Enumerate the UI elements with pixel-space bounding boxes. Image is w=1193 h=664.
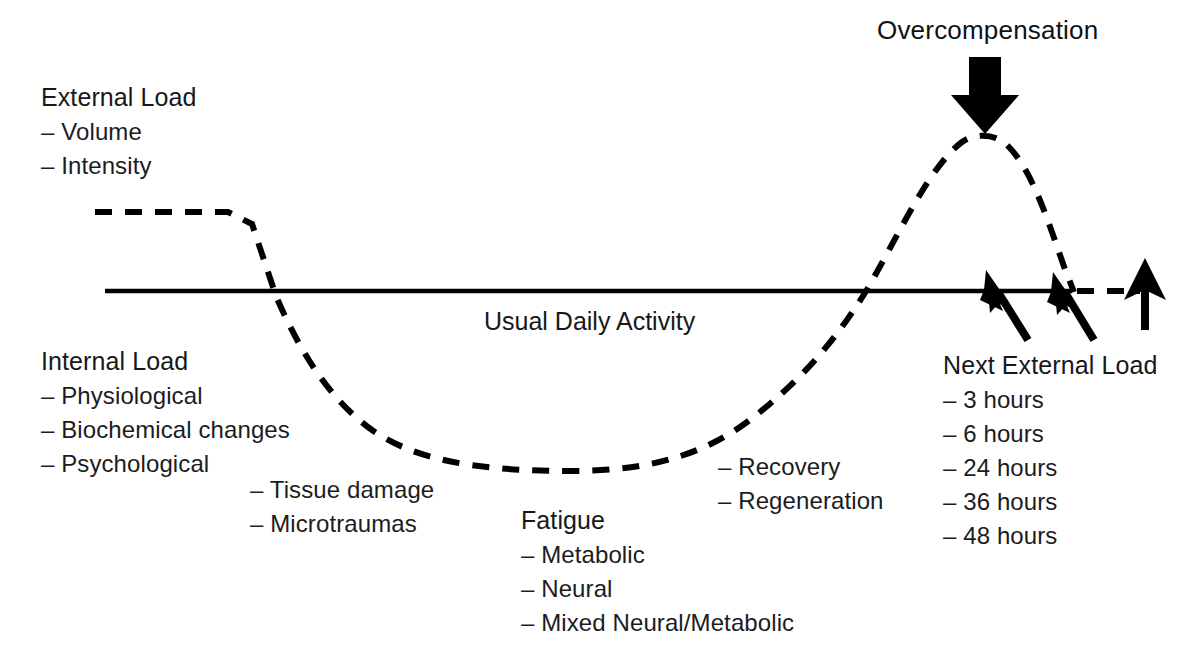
next-external-load-item-6-hours: – 6 hours [943,417,1157,451]
usual-daily-activity-group: Usual Daily Activity [484,305,695,337]
external-load-item-volume: – Volume [41,115,197,149]
internal-load-heading: Internal Load [41,344,290,379]
fatigue-item-mixed-neural-metabolic: – Mixed Neural/Metabolic [521,606,794,640]
usual-daily-activity-label: Usual Daily Activity [484,305,695,337]
tissue-item-tissue-damage: – Tissue damage [250,473,434,507]
fatigue-group: Fatigue – Metabolic – Neural – Mixed Neu… [521,503,794,640]
internal-load-group: Internal Load – Physiological – Biochemi… [41,344,290,481]
external-load-item-intensity: – Intensity [41,149,197,183]
next-load-arrow-3 [1124,258,1166,330]
next-load-arrow-1 [980,270,1028,340]
external-load-group: External Load – Volume – Intensity [41,80,197,183]
external-load-heading: External Load [41,80,197,115]
overcompensation-label-group: Overcompensation [877,14,1098,46]
fatigue-item-neural: – Neural [521,572,794,606]
next-external-load-heading: Next External Load [943,348,1157,383]
recovery-item-recovery: – Recovery [718,450,884,484]
internal-load-item-biochemical-changes: – Biochemical changes [41,413,290,447]
diagram-canvas: Overcompensation External Load – Volume … [0,0,1193,664]
recovery-item-regeneration: – Regeneration [718,484,884,518]
next-external-load-item-3-hours: – 3 hours [943,383,1157,417]
overcompensation-label: Overcompensation [877,14,1098,46]
tissue-damage-group: – Tissue damage – Microtraumas [250,473,434,541]
fatigue-item-metabolic: – Metabolic [521,538,794,572]
next-external-load-item-36-hours: – 36 hours [943,485,1157,519]
next-external-load-item-48-hours: – 48 hours [943,519,1157,553]
internal-load-item-physiological: – Physiological [41,379,290,413]
down-block-arrow-icon [951,57,1019,134]
next-external-load-item-24-hours: – 24 hours [943,451,1157,485]
tissue-item-microtraumas: – Microtraumas [250,507,434,541]
recovery-group: – Recovery – Regeneration [718,450,884,518]
next-external-load-group: Next External Load – 3 hours – 6 hours –… [943,348,1157,553]
